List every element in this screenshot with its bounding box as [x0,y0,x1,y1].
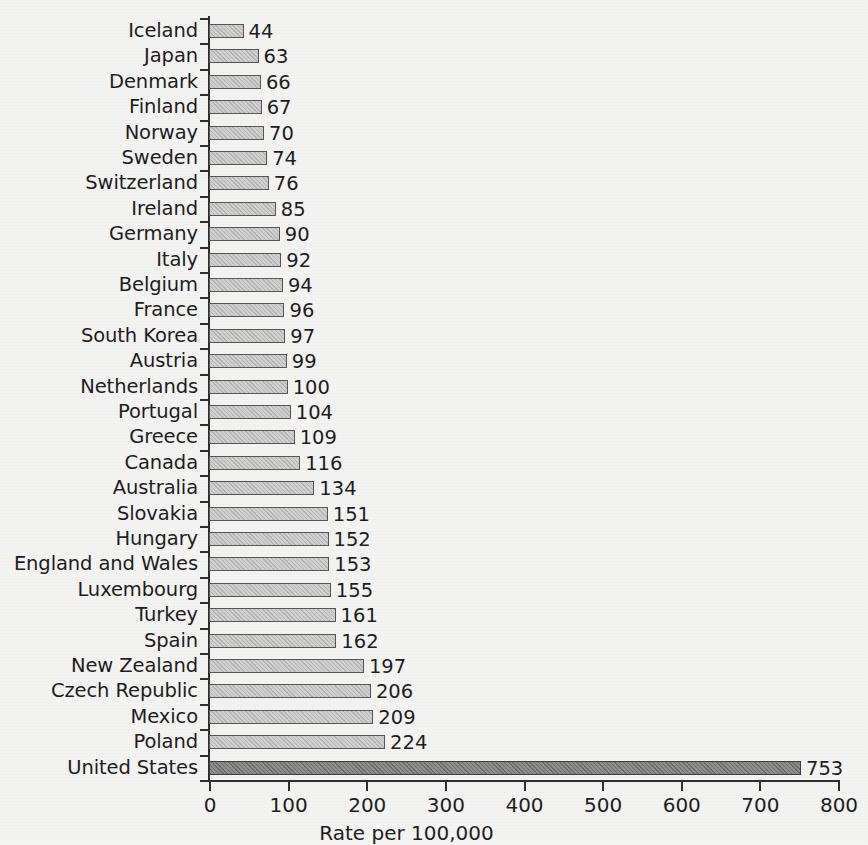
y-axis-tick [200,69,209,71]
category-label: Sweden [122,145,198,171]
bar-value-label: 153 [334,551,371,577]
x-axis-tick [681,782,683,791]
bar [209,176,269,190]
bar-value-label: 90 [285,221,310,247]
bar-value-label: 76 [274,170,299,196]
bar-row: Spain162 [0,628,868,654]
bar-row: Luxembourg155 [0,577,868,603]
bar [209,100,262,114]
category-label: Italy [156,247,198,273]
bar-value-label: 97 [290,323,315,349]
bar-value-label: 92 [286,247,311,273]
y-axis-tick [200,729,209,731]
category-label: Canada [124,450,198,476]
y-axis-tick [200,780,209,782]
x-axis-tick [602,782,604,791]
category-label: Switzerland [85,170,198,196]
y-axis-tick [200,247,209,249]
category-label: France [134,297,198,323]
y-axis-tick [200,551,209,553]
x-axis-tick-label: 300 [427,793,465,817]
bar-row: Greece109 [0,424,868,450]
bar-row: Iceland44 [0,18,868,44]
y-axis-tick [200,628,209,630]
category-label: Turkey [135,602,198,628]
category-label: Slovakia [117,501,198,527]
bar-value-label: 155 [336,577,373,603]
bar-value-label: 99 [292,348,317,374]
bar-row: Austria99 [0,348,868,374]
category-label: England and Wales [14,551,198,577]
category-label: Luxembourg [77,577,198,603]
x-axis-tick-label: 700 [741,793,779,817]
y-axis-tick [200,297,209,299]
x-axis-tick-label: 200 [348,793,386,817]
y-axis-tick [200,755,209,757]
bar [209,456,300,470]
bar [209,202,276,216]
bar [209,583,331,597]
bar-value-label: 224 [390,729,427,755]
category-label: Czech Republic [51,678,198,704]
bar [209,405,291,419]
bar [209,329,285,343]
x-axis-tick [209,782,211,791]
y-axis-tick [200,145,209,147]
bar [209,481,314,495]
y-axis-tick [200,577,209,579]
bar-value-label: 96 [289,297,314,323]
bar [209,278,283,292]
y-axis-tick [200,678,209,680]
bar-value-label: 94 [288,272,313,298]
bar-value-label: 70 [269,120,294,146]
y-axis-tick [200,43,209,45]
bar [209,710,373,724]
bar [209,75,261,89]
bar-value-label: 63 [264,43,289,69]
bar-row: Italy92 [0,247,868,273]
bar-value-label: 109 [300,424,337,450]
bar [209,735,385,749]
bar-row: Netherlands100 [0,374,868,400]
y-axis-tick [200,424,209,426]
x-axis-title: Rate per 100,000 [319,821,494,845]
category-label: Japan [144,43,198,69]
y-axis-tick [200,120,209,122]
x-axis-tick-label: 400 [505,793,543,817]
bar-row: Ireland85 [0,196,868,222]
bar [209,634,336,648]
x-axis-tick [759,782,761,791]
bar-value-label: 100 [293,374,330,400]
bar [209,684,371,698]
y-axis-tick [200,526,209,528]
category-label: New Zealand [71,653,198,679]
bar [209,761,801,775]
x-axis-tick [838,782,840,791]
bar-row: Australia134 [0,475,868,501]
bar [209,24,244,38]
bar-value-label: 116 [305,450,342,476]
x-axis-tick [524,782,526,791]
y-axis-tick [200,18,209,20]
y-axis-tick [200,221,209,223]
bar-row: Denmark66 [0,69,868,95]
category-label: Poland [134,729,199,755]
category-label: Germany [109,221,198,247]
bar [209,557,329,571]
bar-value-label: 753 [806,755,843,781]
bar-row: France96 [0,297,868,323]
bar-row: South Korea97 [0,323,868,349]
bar-row: Norway70 [0,120,868,146]
bar-row: Belgium94 [0,272,868,298]
category-label: Australia [113,475,198,501]
bar-value-label: 104 [296,399,333,425]
category-label: Mexico [131,704,199,730]
category-label: Norway [125,120,198,146]
bar-value-label: 152 [334,526,371,552]
x-axis-tick [445,782,447,791]
bar-row: Japan63 [0,43,868,69]
x-axis-tick-label: 100 [270,793,308,817]
bar-value-label: 66 [266,69,291,95]
bar [209,253,281,267]
y-axis-tick [200,323,209,325]
